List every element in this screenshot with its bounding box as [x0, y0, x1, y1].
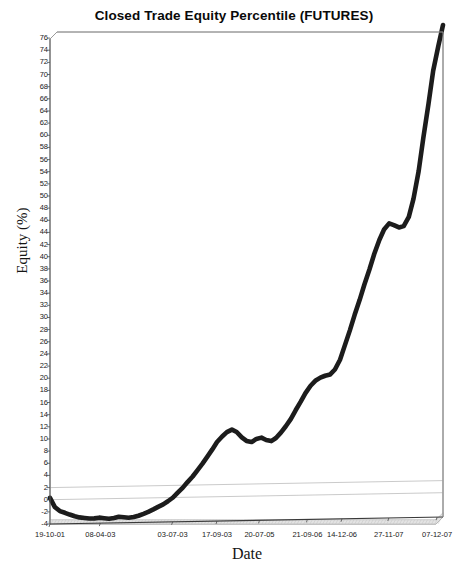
equity-percentile-chart: Closed Trade Equity Percentile (FUTURES)… [0, 0, 468, 570]
plot-frame [50, 32, 443, 524]
plot-area [0, 0, 468, 570]
